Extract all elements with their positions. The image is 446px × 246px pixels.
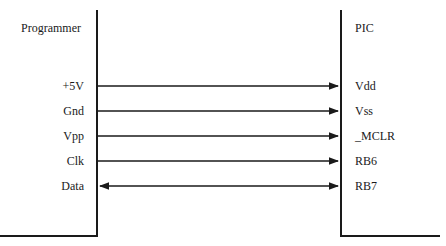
pin-label-rb6: RB6 [355, 154, 377, 168]
programmer-title: Programmer [21, 21, 81, 35]
pic-block-outline [340, 10, 440, 237]
pin-label-rb7: RB7 [355, 179, 377, 193]
signal-label-vpp: Vpp [63, 129, 84, 143]
signal-label-clk: Clk [67, 154, 84, 168]
programmer-block-outline [0, 10, 98, 237]
pin-label-vss: Vss [355, 104, 373, 118]
signal-label-data: Data [61, 179, 84, 193]
signal-label-5v: +5V [63, 79, 84, 93]
diagram-canvas [0, 0, 446, 246]
pin-label-vdd: Vdd [355, 79, 376, 93]
pic-title: PIC [355, 21, 374, 35]
pin-label-mclr: _MCLR [355, 129, 395, 143]
signal-label-gnd: Gnd [63, 104, 84, 118]
